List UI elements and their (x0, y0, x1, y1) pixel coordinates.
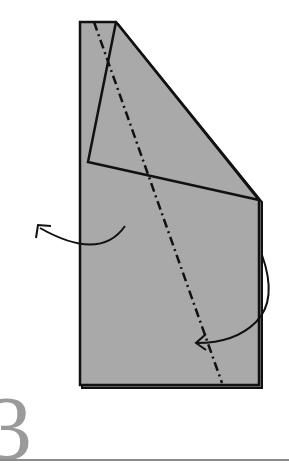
divider-rule (0, 459, 289, 461)
origami-step-diagram (0, 0, 289, 469)
step-number: 3 (0, 388, 32, 468)
paper-shape (80, 22, 259, 385)
